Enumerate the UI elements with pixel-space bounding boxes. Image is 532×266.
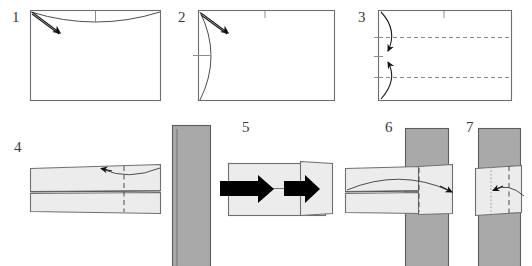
panel-6: 6 — [346, 119, 453, 266]
panel-1-sheet — [31, 11, 161, 101]
step-number-4: 4 — [14, 139, 22, 155]
panel-6-strip-lower — [346, 193, 421, 214]
panel-4-strip-lower — [31, 193, 161, 214]
step-number-7: 7 — [466, 119, 474, 135]
origami-instruction-figure: 1 2 3 — [0, 0, 532, 266]
panel-3: 3 — [358, 9, 512, 101]
panel-5-gray-band — [173, 126, 211, 266]
panel-6-strip-upper — [346, 167, 421, 192]
step-number-6: 6 — [385, 119, 393, 135]
panel-4-strip-upper — [31, 165, 161, 192]
panel-4: 4 — [14, 139, 161, 214]
panel-7: 7 — [466, 119, 524, 266]
step-number-2: 2 — [178, 9, 186, 25]
panel-7-wrapped-panel — [476, 166, 522, 216]
diagram-canvas: 1 2 3 — [0, 0, 532, 266]
panel-5: 5 — [173, 119, 333, 266]
panel-3-sheet — [379, 11, 512, 101]
step-number-1: 1 — [12, 9, 20, 25]
panel-2: 2 — [178, 9, 335, 101]
step-number-3: 3 — [358, 9, 366, 25]
panel-2-sheet — [199, 11, 335, 101]
step-number-5: 5 — [242, 119, 250, 135]
panel-1: 1 — [12, 9, 161, 101]
